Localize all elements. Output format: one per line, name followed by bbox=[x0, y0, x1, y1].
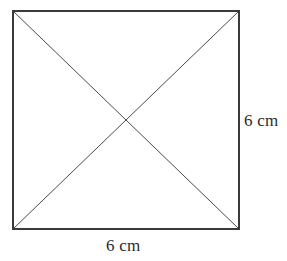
right-side-dimension-label: 6 cm bbox=[244, 111, 278, 131]
geometry-figure: 6 cm 6 cm bbox=[0, 0, 287, 261]
bottom-side-dimension-label: 6 cm bbox=[106, 236, 140, 256]
